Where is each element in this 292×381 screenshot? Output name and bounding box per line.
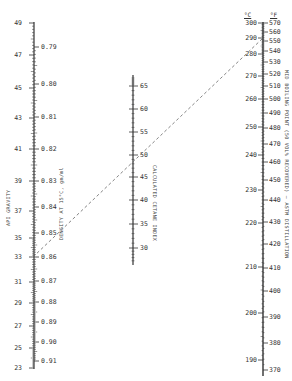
fahrenheit-tick-label: 410 <box>269 265 281 272</box>
fahrenheit-tick-label: 490 <box>269 110 281 117</box>
fahrenheit-tick-label: 450 <box>269 177 281 184</box>
api-gravity-tick-label: 23 <box>0 365 22 372</box>
cetane-index-title: CALCULATED CETANE INDEX <box>152 165 158 241</box>
density-tick-label: 0.91 <box>41 358 57 365</box>
api-gravity-tick-label: 39 <box>0 178 22 185</box>
example-dashed-line <box>33 38 263 257</box>
density-tick-label: 0.88 <box>41 299 57 306</box>
cetane-index-tick-label: 35 <box>140 221 148 228</box>
api-gravity-tick-label: 49 <box>0 20 22 27</box>
celsius-tick-label: 290 <box>235 35 257 42</box>
celsius-tick-label: 230 <box>235 187 257 194</box>
fahrenheit-tick-label: 550 <box>269 38 281 45</box>
density-tick-label: 0.84 <box>41 204 57 211</box>
fahrenheit-tick-label: 430 <box>269 219 281 226</box>
density-tick-label: 0.86 <box>41 254 57 261</box>
api-gravity-tick-label: 33 <box>0 254 22 261</box>
fahrenheit-tick-label: 400 <box>269 288 281 295</box>
density-tick-label: 0.80 <box>41 81 57 88</box>
cetane-index-tick-label: 65 <box>140 83 148 90</box>
fahrenheit-tick-label: 460 <box>269 159 281 166</box>
fahrenheit-tick-label: 370 <box>269 367 281 374</box>
api-gravity-tick-label: 37 <box>0 208 22 215</box>
fahrenheit-tick-label: 390 <box>269 314 281 321</box>
fahrenheit-tick-label: 570 <box>269 20 281 27</box>
fahrenheit-tick-label: 480 <box>269 125 281 132</box>
density-tick-label: 0.81 <box>41 114 57 121</box>
fahrenheit-unit-label: °F <box>270 11 277 18</box>
cetane-index-tick-label: 60 <box>140 106 148 113</box>
fahrenheit-tick-label: 560 <box>269 29 281 36</box>
fahrenheit-tick-label: 530 <box>269 59 281 66</box>
density-tick-label: 0.79 <box>41 44 57 51</box>
api-gravity-tick-label: 31 <box>0 279 22 286</box>
fahrenheit-tick-label: 470 <box>269 141 281 148</box>
api-gravity-tick-label: 25 <box>0 345 22 352</box>
cetane-index-tick-label: 40 <box>140 197 148 204</box>
density-tick-label: 0.89 <box>41 319 57 326</box>
api-gravity-title: API GRAVITY <box>5 190 11 226</box>
celsius-tick-label: 240 <box>235 152 257 159</box>
density-tick-label: 0.85 <box>41 230 57 237</box>
fahrenheit-tick-label: 380 <box>269 340 281 347</box>
celsius-tick-label: 270 <box>235 73 257 80</box>
cetane-index-tick-label: 45 <box>140 174 148 181</box>
celsius-tick-label: 210 <box>235 264 257 271</box>
celsius-tick-label: 200 <box>235 310 257 317</box>
fahrenheit-tick-label: 500 <box>269 96 281 103</box>
celsius-unit-label: °C <box>244 11 251 18</box>
cetane-index-tick-label: 50 <box>140 152 148 159</box>
fahrenheit-tick-label: 440 <box>269 197 281 204</box>
density-tick-label: 0.83 <box>41 178 57 185</box>
api-gravity-tick-label: 43 <box>0 115 22 122</box>
cetane-index-tick-label: 55 <box>140 129 148 136</box>
celsius-tick-label: 250 <box>235 124 257 131</box>
celsius-tick-label: 300 <box>235 20 257 27</box>
fahrenheit-tick-label: 520 <box>269 71 281 78</box>
celsius-tick-label: 190 <box>235 357 257 364</box>
celsius-tick-label: 220 <box>235 220 257 227</box>
api-gravity-tick-label: 41 <box>0 146 22 153</box>
density-tick-label: 0.87 <box>41 278 57 285</box>
api-gravity-tick-label: 47 <box>0 52 22 59</box>
fahrenheit-tick-label: 510 <box>269 83 281 90</box>
celsius-tick-label: 260 <box>235 96 257 103</box>
density-tick-label: 0.90 <box>41 339 57 346</box>
api-gravity-tick-label: 27 <box>0 323 22 330</box>
mid-boiling-title: MID BOILING POINT (50 VOL% RECOVERED) — … <box>284 70 290 259</box>
celsius-tick-label: 280 <box>235 51 257 58</box>
fahrenheit-tick-label: 420 <box>269 241 281 248</box>
fahrenheit-tick-label: 540 <box>269 48 281 55</box>
api-gravity-tick-label: 29 <box>0 300 22 307</box>
density-tick-label: 0.82 <box>41 146 57 153</box>
api-gravity-tick-label: 45 <box>0 85 22 92</box>
api-gravity-tick-label: 35 <box>0 235 22 242</box>
cetane-index-tick-label: 30 <box>140 245 148 252</box>
density-title: DENSITY AT 15°C, gm/ml <box>58 167 64 240</box>
